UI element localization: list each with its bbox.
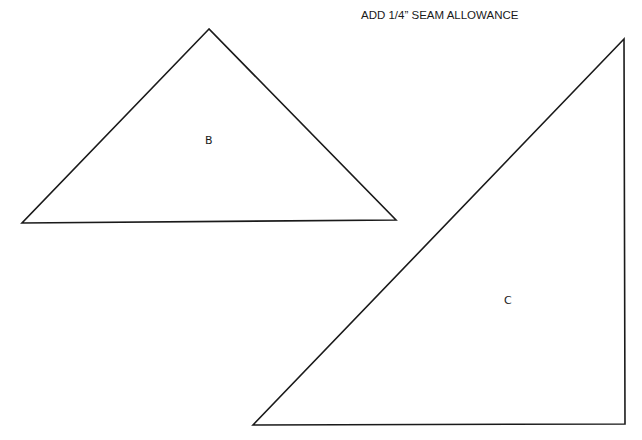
- piece-c-label: C: [504, 294, 512, 307]
- pattern-piece-c-outline: [253, 39, 625, 425]
- pattern-piece-b-outline: [22, 29, 396, 223]
- piece-b-label: B: [205, 134, 213, 147]
- pattern-pieces: [0, 0, 642, 440]
